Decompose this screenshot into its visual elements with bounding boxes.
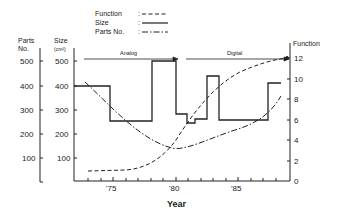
svg-text::: : xyxy=(138,10,140,17)
function-axis xyxy=(287,43,290,181)
parts-no-series xyxy=(85,82,281,149)
svg-text::: : xyxy=(138,28,140,35)
era-arrows xyxy=(84,57,289,61)
parts-no-axis xyxy=(40,48,43,182)
chart-canvas: : : : xyxy=(0,0,340,217)
svg-text::: : xyxy=(138,19,140,26)
size-axis xyxy=(74,48,77,181)
function-endpoint-marker xyxy=(286,57,289,60)
size-series xyxy=(74,61,281,123)
year-axis xyxy=(74,177,290,181)
